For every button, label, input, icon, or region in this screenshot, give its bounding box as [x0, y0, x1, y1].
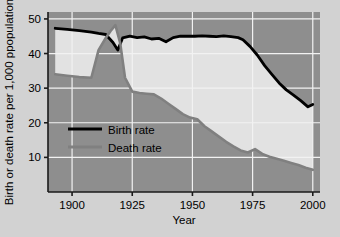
y-tick-label: 40 [28, 48, 41, 60]
x-tick-label: 2000 [300, 199, 326, 211]
x-tick-label: 1950 [180, 199, 206, 211]
legend-label-birth-rate: Birth rate [108, 124, 155, 136]
x-tick-label: 1975 [240, 199, 266, 211]
x-tick-label: 1900 [59, 199, 85, 211]
x-axis-title: Year [172, 214, 195, 226]
y-tick-label: 10 [28, 151, 41, 163]
chart-figure: 1020304050 19001925195019752000 Birth or… [0, 0, 340, 237]
y-tick-label: 20 [28, 117, 41, 129]
legend-label-death-rate: Death rate [108, 142, 162, 154]
y-tick-label: 50 [28, 13, 41, 25]
birth-death-rate-line-chart: 1020304050 19001925195019752000 Birth or… [0, 0, 340, 237]
y-tick-label: 30 [28, 82, 41, 94]
y-axis-title: Birth or death rate per 1,000 ppopulatio… [3, 0, 15, 205]
x-tick-label: 1925 [119, 199, 145, 211]
